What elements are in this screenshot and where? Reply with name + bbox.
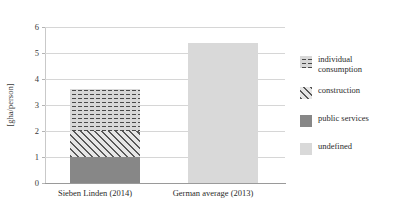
tick-mark-5 <box>42 53 45 54</box>
tick-mark-6 <box>42 27 45 28</box>
dotted-swatch-icon <box>300 56 312 68</box>
dark-gray-swatch-icon <box>300 115 312 127</box>
stacked-bar-chart: [gha/person] 6 5 4 3 2 1 0 <box>0 0 398 220</box>
plot-area: 6 5 4 3 2 1 0 <box>45 27 285 183</box>
legend-label-undefined: undefined <box>318 142 396 152</box>
legend-item-individual-consumption[interactable]: individual consumption <box>300 55 396 74</box>
bar-segment-public-services[interactable] <box>70 157 140 183</box>
gridline-0: 0 <box>45 183 285 184</box>
legend-label-line1: individual <box>318 54 352 64</box>
tick-mark-4 <box>42 79 45 80</box>
y-tick-label-6: 6 <box>35 22 39 32</box>
y-tick-label-0: 0 <box>35 178 39 188</box>
legend-item-public-services[interactable]: public services <box>300 114 396 128</box>
tick-mark-0 <box>42 183 45 184</box>
bar-segment-construction[interactable] <box>70 131 140 157</box>
legend-label-individual-consumption: individual consumption <box>318 55 396 74</box>
bar-sieben-linden[interactable] <box>70 89 140 183</box>
cut-off-caption <box>6 0 256 5</box>
y-tick-label-3: 3 <box>35 100 39 110</box>
tick-mark-2 <box>42 131 45 132</box>
chart-legend: individual consumption construction publ… <box>300 55 396 168</box>
hatch-swatch-icon <box>300 87 312 99</box>
legend-item-undefined[interactable]: undefined <box>300 142 396 156</box>
bar-segment-undefined[interactable] <box>188 43 258 183</box>
tick-mark-3 <box>42 105 45 106</box>
gridline-6: 6 <box>45 27 285 28</box>
y-axis-title: [gha/person] <box>5 84 15 127</box>
y-tick-label-1: 1 <box>35 152 39 162</box>
legend-label-public-services: public services <box>318 114 396 124</box>
y-tick-label-2: 2 <box>35 126 39 136</box>
tick-mark-1 <box>42 157 45 158</box>
legend-item-construction[interactable]: construction <box>300 86 396 100</box>
light-gray-swatch-icon <box>300 143 312 155</box>
bar-german-average[interactable] <box>188 43 258 183</box>
y-tick-label-5: 5 <box>35 48 39 58</box>
bar-segment-individual-consumption[interactable] <box>70 89 140 131</box>
legend-label-construction: construction <box>318 86 396 96</box>
x-category-label-sieben-linden: Sieben Linden (2014) <box>35 188 155 198</box>
y-tick-label-4: 4 <box>35 74 39 84</box>
x-category-label-german-average: German average (2013) <box>153 188 273 198</box>
legend-label-line2: consumption <box>318 65 396 75</box>
